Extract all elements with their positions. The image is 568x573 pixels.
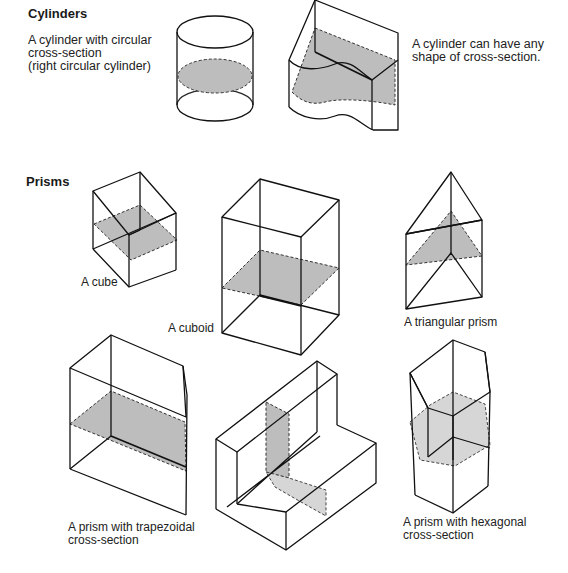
trapezoidal-prism-figure <box>70 335 187 515</box>
cuboid-figure <box>222 179 339 355</box>
wavy-cylinder-figure <box>289 0 398 130</box>
triangular-prism-figure <box>406 172 482 309</box>
cube-figure <box>93 172 177 287</box>
shapes-diagram <box>0 0 568 573</box>
circular-cylinder-figure <box>177 16 253 121</box>
hexagonal-prism-figure <box>410 340 490 513</box>
l-shaped-prism-figure <box>216 361 376 550</box>
